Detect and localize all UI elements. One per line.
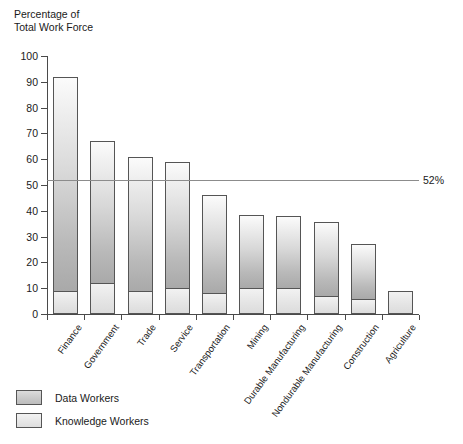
y-axis-tick-label: 30	[26, 231, 38, 243]
x-axis-tick	[121, 315, 122, 320]
bar-segment-knowledge-workers	[314, 296, 339, 314]
x-axis-label-nondurable-manufacturing: Nondurable Manufacturing	[269, 322, 344, 419]
bar-segment-knowledge-workers	[165, 288, 190, 314]
bar-finance[interactable]	[53, 77, 78, 314]
x-axis-label-mining: Mining	[244, 322, 269, 351]
y-axis-tick-label: 80	[26, 102, 38, 114]
y-axis-tick-label: 0	[32, 308, 38, 320]
y-axis-tick	[41, 82, 47, 83]
x-axis-label-trade: Trade	[135, 322, 158, 348]
bar-segment-knowledge-workers	[128, 291, 153, 314]
x-axis-tick	[419, 315, 420, 320]
x-axis-tick	[196, 315, 197, 320]
legend-swatch-data-workers-icon	[16, 390, 42, 405]
bar-segment-knowledge-workers	[53, 291, 78, 314]
y-axis-tick-label: 90	[26, 76, 38, 88]
chart-legend: Data Workers Knowledge Workers	[16, 389, 149, 435]
bar-durable-manufacturing[interactable]	[276, 216, 301, 314]
y-axis-tick-label: 10	[26, 282, 38, 294]
x-axis-tick	[382, 315, 383, 320]
y-axis-tick	[41, 159, 47, 160]
legend-label-data-workers: Data Workers	[55, 392, 119, 404]
x-axis-label-finance: Finance	[55, 322, 84, 356]
bar-government[interactable]	[90, 141, 115, 314]
legend-label-knowledge-workers: Knowledge Workers	[55, 415, 149, 427]
x-axis-label-government: Government	[81, 322, 121, 371]
y-axis-tick-label: 60	[26, 153, 38, 165]
y-axis-tick	[41, 56, 47, 57]
y-axis-tick-label: 70	[26, 127, 38, 139]
y-axis-tick	[41, 288, 47, 289]
bar-mining[interactable]	[239, 215, 264, 314]
y-axis-tick-label: 20	[26, 256, 38, 268]
y-axis-tick	[41, 185, 47, 186]
x-axis-tick	[159, 315, 160, 320]
plot-area: 0102030405060708090100 52% FinanceGovern…	[47, 56, 419, 315]
chart-axis-title: Percentage of Total Work Force	[14, 8, 93, 34]
bar-nondurable-manufacturing[interactable]	[314, 222, 339, 314]
y-axis-tick-label: 50	[26, 179, 38, 191]
bar-segment-data-workers	[202, 195, 227, 294]
legend-item-data-workers: Data Workers	[16, 389, 149, 406]
y-axis-tick	[41, 211, 47, 212]
x-axis-label-transportation: Transportation	[188, 322, 233, 378]
bar-segment-knowledge-workers	[276, 288, 301, 314]
x-axis-tick	[270, 315, 271, 320]
bar-segment-data-workers	[90, 141, 115, 284]
x-axis-tick	[47, 315, 48, 320]
bar-service[interactable]	[165, 162, 190, 314]
y-axis-tick	[41, 108, 47, 109]
bar-segment-knowledge-workers	[388, 291, 413, 314]
x-axis-tick	[233, 315, 234, 320]
bar-segment-data-workers	[239, 215, 264, 290]
bar-segment-knowledge-workers	[202, 293, 227, 314]
legend-swatch-knowledge-workers-icon	[16, 413, 42, 428]
legend-item-knowledge-workers: Knowledge Workers	[16, 412, 149, 429]
y-axis-tick	[41, 133, 47, 134]
x-axis-label-construction: Construction	[341, 322, 381, 372]
reference-line	[47, 180, 419, 181]
y-axis-tick	[41, 237, 47, 238]
bar-segment-data-workers	[351, 244, 376, 299]
bar-construction[interactable]	[351, 244, 376, 314]
x-axis-tick	[345, 315, 346, 320]
reference-line-label: 52%	[423, 174, 444, 186]
bar-transportation[interactable]	[202, 195, 227, 314]
bar-segment-data-workers	[128, 157, 153, 292]
bar-segment-knowledge-workers	[90, 283, 115, 314]
y-axis-tick-label: 100	[20, 50, 38, 62]
x-axis-tick	[84, 315, 85, 320]
y-axis-line	[47, 56, 48, 315]
x-axis-label-agriculture: Agriculture	[383, 322, 419, 365]
y-axis-tick-label: 40	[26, 205, 38, 217]
bar-segment-data-workers	[165, 162, 190, 289]
x-axis-tick	[307, 315, 308, 320]
bar-segment-data-workers	[314, 222, 339, 297]
bar-segment-data-workers	[53, 77, 78, 292]
bar-segment-knowledge-workers	[351, 299, 376, 314]
bar-agriculture[interactable]	[388, 291, 413, 314]
bar-segment-data-workers	[276, 216, 301, 289]
bar-segment-knowledge-workers	[239, 288, 264, 314]
x-axis-label-service: Service	[168, 322, 196, 354]
y-axis-tick	[41, 262, 47, 263]
